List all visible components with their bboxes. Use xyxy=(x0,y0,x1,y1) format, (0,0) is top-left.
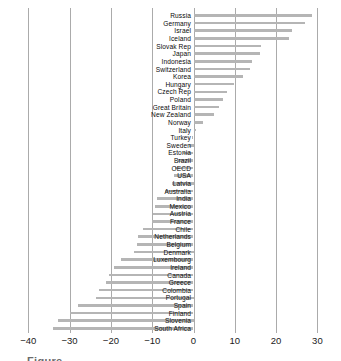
country-label: France xyxy=(170,218,191,226)
country-label: Ireland xyxy=(170,264,191,272)
x-tick-label: −10 xyxy=(135,335,169,346)
bar xyxy=(194,83,234,86)
country-label: Japan xyxy=(173,50,191,58)
bar xyxy=(194,129,196,132)
country-label: Spain xyxy=(174,302,191,310)
country-label: India xyxy=(176,195,191,203)
country-label: Australia xyxy=(164,188,191,196)
country-label: Brazil xyxy=(174,157,191,165)
country-label: Indonesia xyxy=(162,58,192,66)
country-label: Finland xyxy=(169,310,191,318)
country-label: Slovenia xyxy=(165,317,191,325)
bar xyxy=(194,29,292,32)
bar xyxy=(194,98,224,101)
country-label: South Africa xyxy=(154,325,191,333)
bar xyxy=(194,113,215,116)
bar xyxy=(194,14,312,17)
country-label: Korea xyxy=(173,73,191,81)
country-label: Slovak Rep xyxy=(156,43,191,51)
x-tick-label: 30 xyxy=(300,335,334,346)
country-label: New Zealand xyxy=(151,111,191,119)
bar xyxy=(194,106,219,109)
country-label: Estonia xyxy=(168,149,191,157)
bar xyxy=(194,68,250,71)
country-label: Russia xyxy=(170,12,191,20)
bar xyxy=(194,22,305,25)
country-label: Canada xyxy=(167,272,191,280)
x-tick-label: −20 xyxy=(94,335,128,346)
country-label: Turkey xyxy=(170,134,191,142)
x-tick-label: 10 xyxy=(218,335,252,346)
country-label: Austria xyxy=(170,210,191,218)
country-label: Latvia xyxy=(173,180,191,188)
x-tick-label: 20 xyxy=(259,335,293,346)
country-label: Luxembourg xyxy=(153,256,191,264)
x-tick-label: 0 xyxy=(177,335,211,346)
country-label: Greece xyxy=(169,279,191,287)
bar xyxy=(194,37,290,40)
bar xyxy=(194,75,243,78)
country-label: Denmark xyxy=(164,249,191,257)
x-tick-label: −30 xyxy=(53,335,87,346)
country-label: Poland xyxy=(170,96,191,104)
bar-chart: RussiaGermanyIsraelIcelandSlovak RepJapa… xyxy=(0,0,341,361)
country-label: Norway xyxy=(168,119,191,127)
x-tick-label: −40 xyxy=(11,335,45,346)
country-label: Israel xyxy=(174,27,191,35)
bar xyxy=(194,60,252,63)
country-label: Colombia xyxy=(162,287,191,295)
country-label: Sweden xyxy=(167,142,191,150)
country-label: Iceland xyxy=(169,35,191,43)
country-label: Czech Rep xyxy=(157,88,191,96)
country-label: Chile xyxy=(175,226,191,234)
country-label: Mexico xyxy=(170,203,192,211)
country-label: Italy xyxy=(178,127,191,135)
bar xyxy=(194,52,260,55)
country-label: Portugal xyxy=(166,294,191,302)
bar xyxy=(194,121,204,124)
bar xyxy=(192,136,193,139)
country-label: Hungary xyxy=(165,81,191,89)
country-label: Netherlands xyxy=(154,233,191,241)
country-label: Great Britain xyxy=(153,104,191,112)
country-label: Germany xyxy=(163,20,191,28)
figure-caption: Figure xyxy=(27,355,62,361)
country-label: Belgium xyxy=(166,241,191,249)
country-label: USA xyxy=(177,172,191,180)
country-label: Switzerland xyxy=(156,66,191,74)
bar xyxy=(194,45,262,48)
bar xyxy=(194,91,227,94)
country-label: OECD xyxy=(172,165,191,173)
